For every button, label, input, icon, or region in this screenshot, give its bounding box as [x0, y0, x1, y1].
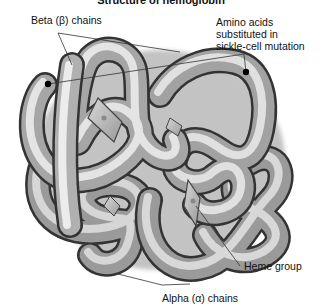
label-amino-acids-line2: substituted in — [216, 28, 278, 41]
mutation-dot-right — [243, 69, 249, 75]
mutation-dot-left — [45, 81, 51, 87]
label-heme-group: Heme group — [244, 260, 302, 273]
alpha-leader-right — [162, 284, 190, 285]
label-amino-acids-line3: sickle-cell mutation — [216, 40, 305, 53]
label-amino-acids-line1: Amino acids — [216, 16, 273, 29]
label-beta-chains: Beta (β) chains — [31, 14, 102, 27]
alpha-leader-left — [118, 274, 162, 285]
beta-chain-front-strand — [62, 65, 72, 225]
label-alpha-chains: Alpha (α) chains — [162, 292, 238, 305]
